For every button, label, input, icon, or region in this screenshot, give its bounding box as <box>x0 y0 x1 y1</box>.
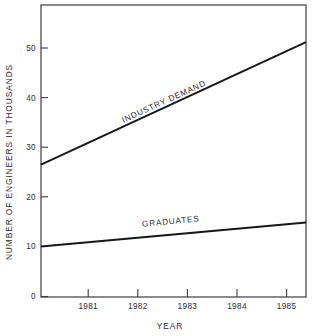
x-axis-title: YEAR <box>157 321 183 331</box>
y-tick-label-50: 50 <box>26 44 36 53</box>
y-tick-label-40: 40 <box>26 94 36 103</box>
y-tick-label-20: 20 <box>26 193 36 202</box>
x-tick-labels: 1981 1982 1983 1984 1985 <box>78 302 296 311</box>
x-tick-label-1982: 1982 <box>128 302 148 311</box>
chart-canvas: 0 10 20 30 40 50 1981 1982 1983 1984 198… <box>0 0 316 336</box>
y-tick-label-0: 0 <box>31 292 36 301</box>
x-tick-label-1984: 1984 <box>227 302 247 311</box>
x-tick-label-1983: 1983 <box>178 302 198 311</box>
x-tick-label-1981: 1981 <box>78 302 98 311</box>
y-tick-label-30: 30 <box>26 143 36 152</box>
plot-background <box>41 5 306 297</box>
y-axis-title: NUMBER OF ENGINEERS IN THOUSANDS <box>4 64 14 260</box>
y-tick-labels: 0 10 20 30 40 50 <box>26 44 36 302</box>
y-tick-label-10: 10 <box>26 242 36 251</box>
engineers-line-chart: 0 10 20 30 40 50 1981 1982 1983 1984 198… <box>0 0 316 336</box>
x-tick-label-1985: 1985 <box>277 302 297 311</box>
